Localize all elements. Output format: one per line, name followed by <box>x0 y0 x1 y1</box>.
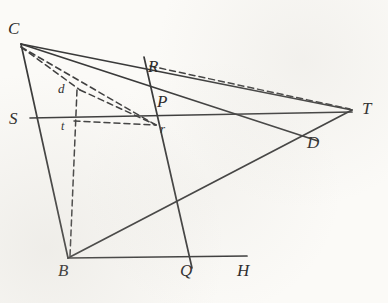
point-label-S: S <box>9 110 18 127</box>
point-label-T: T <box>362 100 371 117</box>
point-label-Q: Q <box>180 262 192 279</box>
point-label-P: P <box>157 93 167 110</box>
dashed-d-B <box>70 90 77 256</box>
point-label-r: r <box>160 122 165 135</box>
point-label-R: R <box>148 58 158 75</box>
dashed-d-r <box>80 90 156 125</box>
segment-S-T <box>30 112 352 118</box>
segment-C-T <box>21 44 352 110</box>
dashed-C-r <box>21 47 156 125</box>
point-label-t: t <box>61 120 64 132</box>
point-label-C: C <box>8 20 19 37</box>
segment-B-H <box>68 256 247 258</box>
figure-canvas <box>0 0 388 303</box>
point-label-B: B <box>58 262 68 279</box>
dashed-line-group <box>21 47 350 256</box>
geometry-figure: CRPSTDBQHdtr <box>0 0 388 303</box>
segment-R-Q <box>144 57 192 268</box>
dashed-R-T <box>150 66 350 109</box>
point-label-H: H <box>237 262 249 279</box>
point-label-d: d <box>58 82 65 95</box>
dashed-t-r <box>74 121 156 125</box>
point-label-D: D <box>307 134 319 151</box>
